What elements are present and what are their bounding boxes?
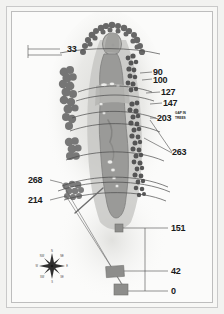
compass-rose: N S E W NE NW SE SW bbox=[36, 249, 69, 284]
compass-label-n: N bbox=[51, 249, 53, 253]
leader-214 bbox=[50, 196, 66, 200]
compass-label-w: W bbox=[36, 264, 39, 268]
gap-in-trees-note-line2: TREES bbox=[175, 117, 186, 121]
yardage-label-127: 127 bbox=[161, 88, 175, 97]
compass-label-s: S bbox=[51, 280, 53, 284]
yardage-map-page: N S E W NE NW SE SW 33 90 100 127 147 20… bbox=[0, 0, 224, 314]
yardage-label-100: 100 bbox=[153, 76, 167, 85]
compass-label-e: E bbox=[66, 264, 68, 268]
tee-box-0 bbox=[114, 284, 128, 295]
compass-label-nw: NW bbox=[40, 254, 45, 258]
yardage-label-151: 151 bbox=[171, 224, 185, 233]
yardage-label-263: 263 bbox=[172, 148, 186, 157]
compass-label-se: SE bbox=[60, 275, 64, 279]
yardage-label-268: 268 bbox=[28, 176, 42, 185]
yardage-label-33: 33 bbox=[67, 45, 77, 54]
yardage-label-203: 203 bbox=[157, 114, 171, 123]
compass-hub bbox=[51, 265, 54, 268]
yardage-label-0: 0 bbox=[171, 287, 176, 296]
yardage-label-214: 214 bbox=[28, 196, 42, 205]
tee-box-42 bbox=[106, 265, 125, 277]
compass-label-sw: SW bbox=[40, 275, 45, 279]
yardage-label-147: 147 bbox=[163, 99, 177, 108]
yardage-label-42: 42 bbox=[171, 267, 181, 276]
compass-label-ne: NE bbox=[60, 254, 64, 258]
hole-map: N S E W NE NW SE SW bbox=[0, 0, 224, 314]
tee-box-151 bbox=[115, 224, 123, 232]
